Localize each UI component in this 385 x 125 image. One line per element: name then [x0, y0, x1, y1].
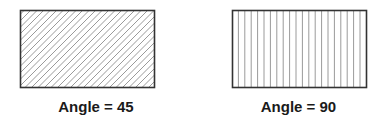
angle-45-label: Angle = 45	[0, 98, 192, 115]
angle-90-label: Angle = 90	[202, 98, 385, 115]
hatched-rectangle-45	[0, 0, 192, 90]
panel-angle-45: Angle = 45	[0, 0, 192, 125]
hatched-rectangle-90	[192, 0, 385, 90]
panel-angle-90: Angle = 90	[192, 0, 385, 125]
